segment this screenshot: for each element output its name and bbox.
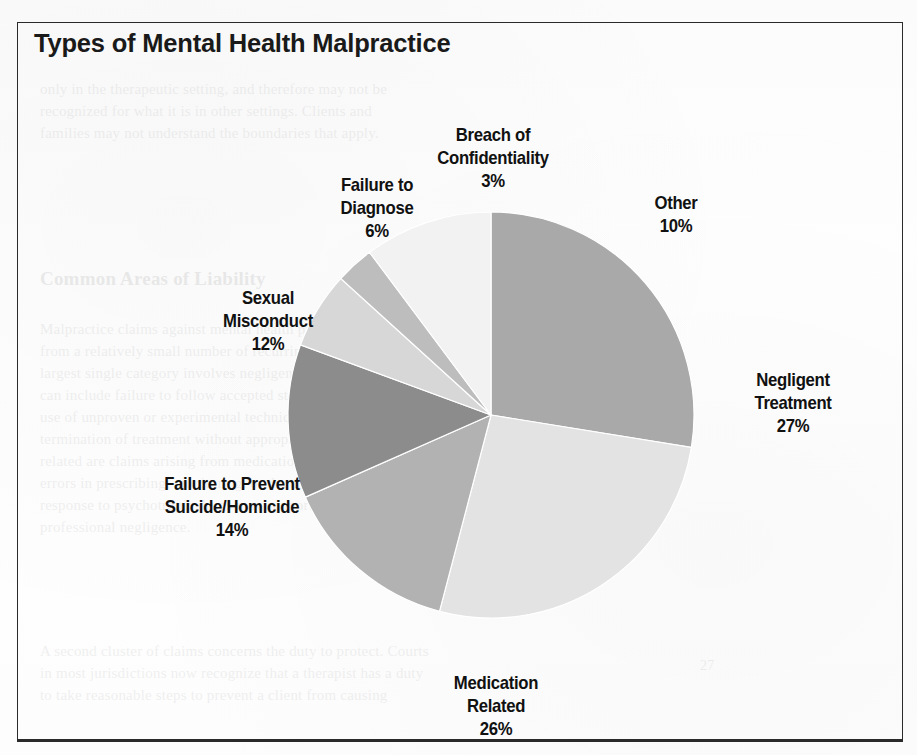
figure-title: Types of Mental Health Malpractice [34,29,450,58]
slice-label-medication-text: Medication Related [454,672,538,716]
slice-label-negligent-treatment: Negligent Treatment 27% [711,345,875,460]
slice-label-other-percent: 10% [614,214,737,237]
slice-label-medication-percent: 26% [408,717,584,740]
slice-label-sexual-misconduct: Sexual Misconduct 12% [180,263,356,378]
slice-label-other-text: Other [654,192,697,213]
slice-label-sexual-percent: 12% [180,332,356,355]
slice-label-failure-to-diagnose: Failure to Diagnose 6% [302,150,452,265]
slice-label-suicide-percent: 14% [119,518,344,541]
slice-label-diagnose-text: Failure to Diagnose [341,174,414,218]
slice-label-suicide-text: Failure to Prevent Suicide/Homicide [164,473,300,517]
scanned-page: only in the therapeutic setting, and the… [0,0,917,755]
slice-label-breach-text: Breach of Confidentiality [437,124,548,168]
slice-label-negligent-percent: 27% [711,414,875,437]
page-bottom-rule [17,740,903,742]
slice-label-negligent-text: Negligent Treatment [754,369,831,413]
slice-label-medication-related: Medication Related 26% [408,648,584,755]
slice-label-diagnose-percent: 6% [302,219,452,242]
slice-label-other: Other 10% [614,168,737,260]
slice-label-failure-to-prevent-suicide-homicide: Failure to Prevent Suicide/Homicide 14% [119,449,344,564]
slice-label-sexual-text: Sexual Misconduct [223,287,313,331]
